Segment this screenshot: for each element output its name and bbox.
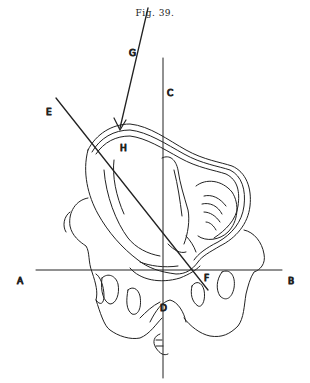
label-e: E (46, 107, 52, 117)
label-h: H (120, 143, 127, 153)
line-e-f (56, 98, 208, 290)
label-d: D (160, 303, 167, 313)
label-f: F (204, 273, 209, 283)
axis-lines (36, 8, 282, 378)
labels: A B C D E F G H (17, 48, 294, 313)
line-g-h (120, 8, 148, 128)
label-c: C (167, 88, 173, 98)
label-b: B (288, 276, 294, 286)
label-a: A (17, 276, 24, 286)
pelvis-diagram: A B C D E F G H (0, 0, 310, 383)
label-g: G (129, 48, 136, 58)
uterus-outline (86, 124, 251, 274)
